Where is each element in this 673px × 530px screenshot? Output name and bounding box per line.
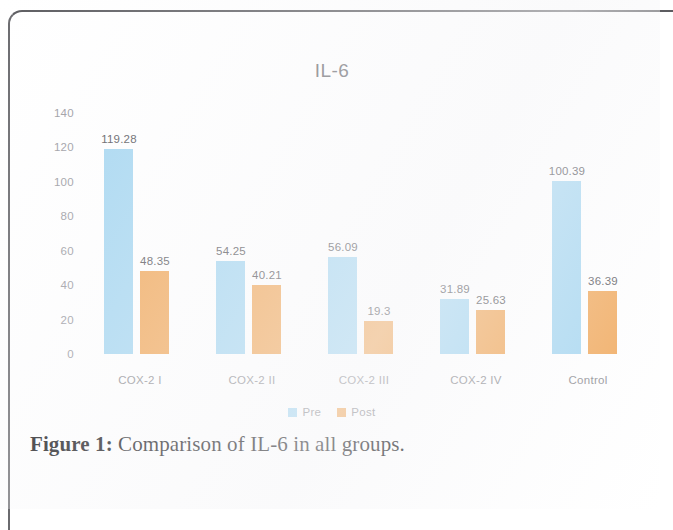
chart-legend: PrePost <box>14 406 650 418</box>
y-axis-tick: 100 <box>40 177 74 188</box>
plot-area: 119.2848.35COX-2 I54.2540.21COX-2 II56.0… <box>84 14 644 426</box>
bar-value-label: 100.39 <box>536 165 598 177</box>
bar-group: 54.2540.21COX-2 II <box>196 113 308 354</box>
y-axis-tick: 60 <box>40 246 74 257</box>
y-axis: 140120100806040200 <box>34 14 74 426</box>
figure-caption: Figure 1: Comparison of IL-6 in all grou… <box>30 432 630 457</box>
bar-rect <box>440 299 469 354</box>
legend-label: Post <box>351 406 375 418</box>
legend-label: Pre <box>302 406 321 418</box>
legend-swatch-icon <box>288 408 297 417</box>
bar-value-label: 54.25 <box>200 245 262 257</box>
bar-value-label: 119.28 <box>88 133 150 145</box>
bar-rect <box>104 149 133 354</box>
bar-value-label: 36.39 <box>572 275 634 287</box>
y-axis-tick: 0 <box>40 349 74 360</box>
bar-group: 100.3936.39Control <box>532 113 644 354</box>
bar-rect <box>252 285 281 354</box>
bar-rect <box>140 271 169 354</box>
bar-value-label: 25.63 <box>460 294 522 306</box>
y-axis-tick: 20 <box>40 315 74 326</box>
bar-group: 119.2848.35COX-2 I <box>84 113 196 354</box>
bar-rect <box>588 291 617 354</box>
caption-body: Comparison of IL-6 in all groups. <box>113 432 405 456</box>
bar-rect <box>552 181 581 354</box>
x-axis-category-label: COX-2 IV <box>420 374 532 386</box>
bar-value-label: 56.09 <box>312 241 374 253</box>
bar-value-label: 40.21 <box>236 269 298 281</box>
y-axis-tick: 120 <box>40 142 74 153</box>
legend-swatch-icon <box>337 408 346 417</box>
bar-rect <box>476 310 505 354</box>
chart-figure: IL-6 140120100806040200 119.2848.35COX-2… <box>14 14 650 426</box>
legend-item-post[interactable]: Post <box>337 406 375 418</box>
y-axis-tick: 80 <box>40 211 74 222</box>
bar-group: 56.0919.3COX-2 III <box>308 113 420 354</box>
x-axis-category-label: COX-2 III <box>308 374 420 386</box>
bar-value-label: 19.3 <box>348 305 410 317</box>
legend-item-pre[interactable]: Pre <box>288 406 321 418</box>
x-axis-category-label: Control <box>532 374 644 386</box>
x-axis-category-label: COX-2 I <box>84 374 196 386</box>
bar-rect <box>364 321 393 354</box>
bar-value-label: 48.35 <box>124 255 186 267</box>
bar-group: 31.8925.63COX-2 IV <box>420 113 532 354</box>
y-axis-tick: 140 <box>40 108 74 119</box>
x-axis-category-label: COX-2 II <box>196 374 308 386</box>
y-axis-tick: 40 <box>40 280 74 291</box>
caption-figure-number: Figure 1: <box>30 432 113 456</box>
